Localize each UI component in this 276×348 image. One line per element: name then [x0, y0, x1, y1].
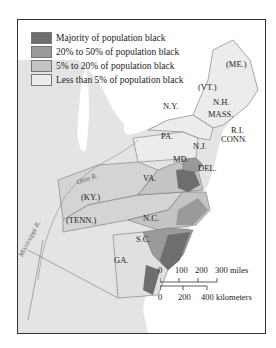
scale-mile-300: 300 miles	[215, 265, 248, 275]
scale-mile-0: 0	[158, 265, 162, 275]
scale-mile-100: 100	[175, 265, 188, 275]
map-frame: Majority of population black 20% to 50% …	[17, 19, 266, 334]
legend-item: 20% to 50% of population black	[31, 45, 183, 59]
legend-item: 5% to 20% of population black	[31, 59, 183, 73]
scale-lines	[160, 276, 222, 292]
legend-label: 20% to 50% of population black	[56, 47, 179, 57]
label-me: (ME.)	[226, 59, 247, 69]
legend-swatch-20-50	[31, 46, 52, 58]
legend-swatch-majority	[31, 32, 52, 44]
legend-label: Less than 5% of population black	[56, 75, 183, 85]
legend-swatch-5-20	[31, 60, 52, 72]
scale-mile-200: 200	[195, 265, 208, 275]
legend-item: Majority of population black	[31, 31, 183, 45]
label-mass: MASS.	[208, 109, 233, 119]
label-tenn: (TENN.)	[66, 215, 96, 225]
label-conn: CONN.	[221, 134, 247, 144]
scale-km-400: 400 kilometers	[201, 292, 252, 302]
label-md: MD.	[173, 154, 189, 164]
label-va: VA.	[143, 173, 156, 183]
scale-km-200: 200	[178, 292, 191, 302]
label-nc: N.C.	[143, 213, 159, 223]
label-ga: GA.	[114, 255, 128, 265]
label-ny: N.Y.	[163, 101, 178, 111]
legend-label: Majority of population black	[56, 33, 166, 43]
label-del: DEL.	[198, 163, 217, 173]
scale-km-0: 0	[158, 292, 162, 302]
legend-item: Less than 5% of population black	[31, 73, 183, 87]
legend: Majority of population black 20% to 50% …	[31, 31, 183, 87]
label-ky: (KY.)	[81, 192, 100, 202]
label-vt: (VT.)	[198, 82, 217, 92]
label-pa: PA.	[161, 131, 173, 141]
label-sc: S.C.	[136, 234, 151, 244]
legend-swatch-less-5	[31, 74, 52, 86]
label-nj: N.J.	[193, 141, 207, 151]
label-nh: N.H.	[213, 97, 230, 107]
legend-label: 5% to 20% of population black	[56, 61, 174, 71]
